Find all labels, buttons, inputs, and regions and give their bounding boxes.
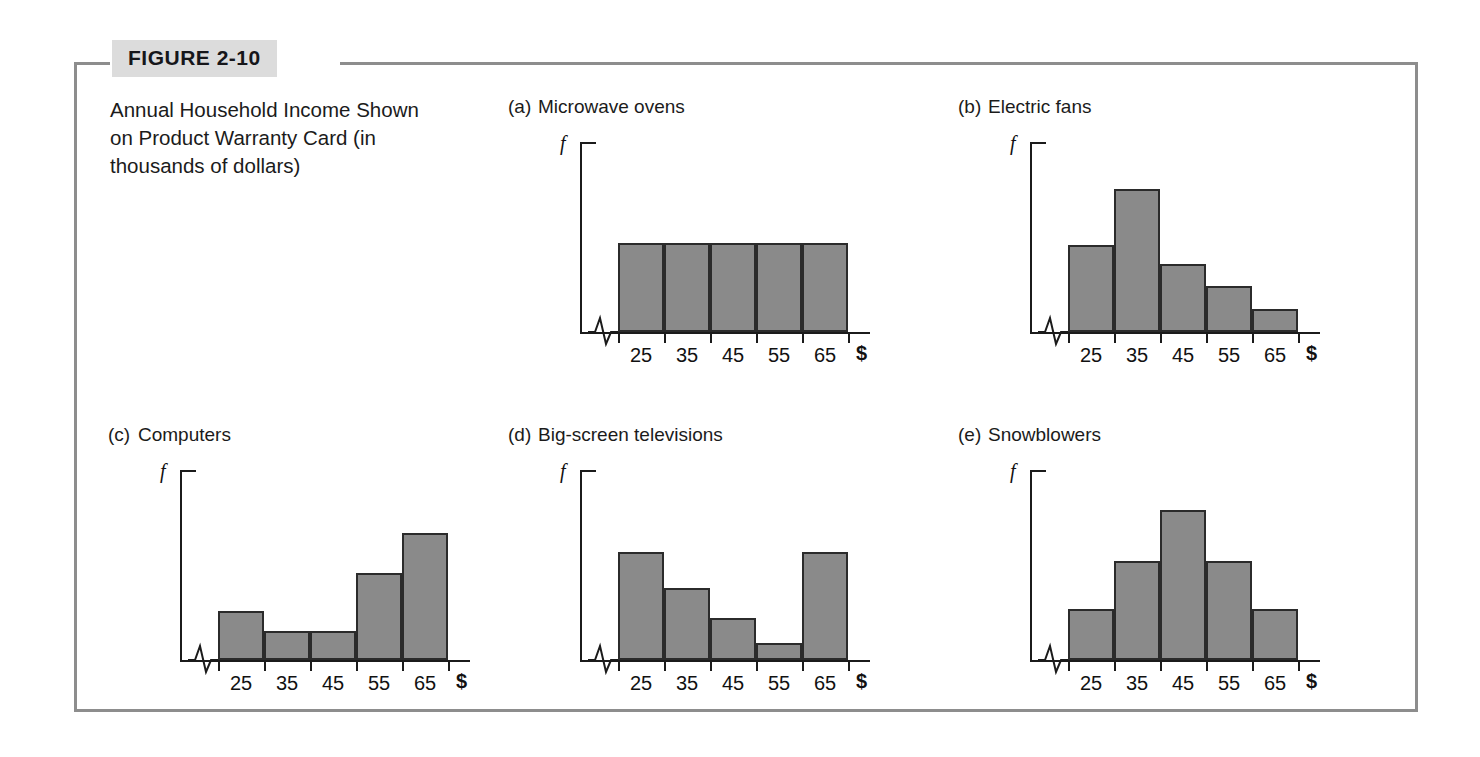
- x-axis-tick: [848, 332, 850, 343]
- x-axis-tick: [618, 660, 620, 671]
- histogram-bar: [310, 631, 356, 660]
- histogram-bar: [1206, 561, 1252, 660]
- histogram-bar: [664, 243, 710, 332]
- x-axis-tick: [1252, 660, 1254, 671]
- axis-break-icon: [1038, 642, 1072, 676]
- x-axis-tick: [664, 660, 666, 671]
- panel-b-plot: f$2535455565: [958, 96, 1338, 386]
- histogram-bar: [1114, 561, 1160, 660]
- y-axis-line: [180, 470, 182, 660]
- histogram-bar: [664, 588, 710, 660]
- bar-group: [1068, 470, 1298, 660]
- x-axis-tick-label: 35: [264, 672, 310, 695]
- y-axis-label: f: [560, 132, 566, 155]
- x-axis-tick: [402, 660, 404, 671]
- axis-break-icon: [188, 642, 222, 676]
- bar-group: [218, 470, 448, 660]
- histogram-bar: [1160, 510, 1206, 660]
- bar-group: [1068, 142, 1298, 332]
- x-axis-tick-label: 35: [1114, 344, 1160, 367]
- histogram-bar: [1068, 245, 1114, 332]
- panel-e-plot: f$2535455565: [958, 424, 1338, 714]
- x-axis-currency-label: $: [456, 670, 467, 693]
- x-axis-tick: [218, 660, 220, 671]
- y-axis-top-cap: [580, 142, 596, 144]
- chart-panel-a: (a)Microwave ovens f$2535455565: [508, 96, 888, 386]
- x-axis-tick: [310, 660, 312, 671]
- x-axis-tick: [848, 660, 850, 671]
- axis-break-icon: [588, 314, 622, 348]
- axis-break-icon: [1038, 314, 1072, 348]
- x-axis-tick-label: 35: [664, 672, 710, 695]
- chart-panel-b: (b)Electric fans f$2535455565: [958, 96, 1338, 386]
- histogram-bar: [802, 243, 848, 332]
- x-axis-tick-label: 65: [1252, 344, 1298, 367]
- x-axis-tick-label: 45: [310, 672, 356, 695]
- y-axis-top-cap: [1030, 142, 1046, 144]
- x-axis-line: [180, 660, 470, 662]
- x-axis-tick-label: 65: [402, 672, 448, 695]
- x-axis-tick: [1160, 332, 1162, 343]
- x-axis-tick-label: 55: [356, 672, 402, 695]
- x-axis-line: [580, 332, 870, 334]
- y-axis-label: f: [160, 460, 166, 483]
- x-axis-tick: [1068, 660, 1070, 671]
- x-axis-tick-label: 55: [756, 344, 802, 367]
- x-axis-tick-label: 55: [1206, 672, 1252, 695]
- x-axis-tick: [1114, 332, 1116, 343]
- y-axis-line: [580, 470, 582, 660]
- x-axis-tick: [1206, 660, 1208, 671]
- panel-c-plot: f$2535455565: [108, 424, 488, 714]
- x-axis-tick: [1298, 332, 1300, 343]
- histogram-bar: [1252, 609, 1298, 660]
- x-axis-tick-label: 25: [218, 672, 264, 695]
- chart-panel-c: (c)Computers f$2535455565: [108, 424, 488, 714]
- y-axis-top-cap: [1030, 470, 1046, 472]
- histogram-bar: [618, 552, 664, 660]
- x-axis-tick-label: 25: [1068, 672, 1114, 695]
- x-axis-tick-label: 25: [618, 672, 664, 695]
- x-axis-tick: [618, 332, 620, 343]
- x-axis-currency-label: $: [1306, 670, 1317, 693]
- x-axis-tick: [756, 332, 758, 343]
- histogram-bar: [710, 243, 756, 332]
- x-axis-tick-label: 55: [1206, 344, 1252, 367]
- x-axis-tick: [448, 660, 450, 671]
- x-axis-tick: [356, 660, 358, 671]
- bar-group: [618, 142, 848, 332]
- x-axis-tick: [710, 660, 712, 671]
- x-axis-tick-label: 45: [710, 672, 756, 695]
- histogram-bar: [618, 243, 664, 332]
- x-axis-tick-label: 65: [802, 344, 848, 367]
- x-axis-tick: [756, 660, 758, 671]
- chart-panel-e: (e)Snowblowers f$2535455565: [958, 424, 1338, 714]
- y-axis-line: [580, 142, 582, 332]
- x-axis-line: [580, 660, 870, 662]
- panel-d-plot: f$2535455565: [508, 424, 888, 714]
- bar-group: [618, 470, 848, 660]
- panel-a-plot: f$2535455565: [508, 96, 888, 386]
- histogram-bar: [1206, 286, 1252, 332]
- x-axis-tick: [1114, 660, 1116, 671]
- x-axis-tick: [802, 332, 804, 343]
- x-axis-tick: [1068, 332, 1070, 343]
- x-axis-tick-label: 65: [1252, 672, 1298, 695]
- x-axis-line: [1030, 660, 1320, 662]
- histogram-bar: [356, 573, 402, 660]
- x-axis-tick-label: 35: [1114, 672, 1160, 695]
- x-axis-tick: [1298, 660, 1300, 671]
- histogram-bar: [1114, 189, 1160, 332]
- x-axis-tick: [1252, 332, 1254, 343]
- histogram-bar: [1160, 264, 1206, 332]
- x-axis-tick-label: 65: [802, 672, 848, 695]
- y-axis-top-cap: [180, 470, 196, 472]
- x-axis-line: [1030, 332, 1320, 334]
- y-axis-line: [1030, 470, 1032, 660]
- x-axis-tick: [802, 660, 804, 671]
- histogram-bar: [1068, 609, 1114, 660]
- x-axis-tick-label: 25: [618, 344, 664, 367]
- histogram-bar: [710, 618, 756, 660]
- x-axis-tick-label: 45: [710, 344, 756, 367]
- x-axis-currency-label: $: [856, 670, 867, 693]
- axis-break-icon: [588, 642, 622, 676]
